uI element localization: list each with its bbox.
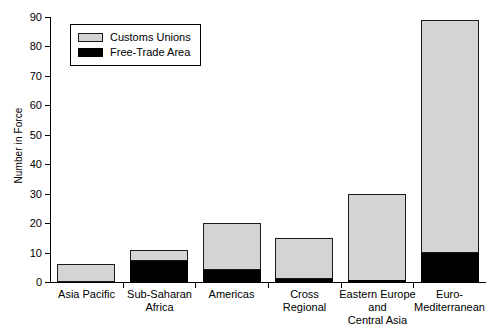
x-label-line: Central Asia (335, 314, 420, 327)
segment-free-trade-area (421, 253, 479, 282)
segment-free-trade-area (130, 261, 188, 282)
bar-sub-saharan-africa (130, 250, 188, 282)
x-label-euro-mediterranean: Euro-Mediterranean (407, 288, 492, 314)
y-tick-label: 90 (18, 9, 42, 25)
y-tick-label: 10 (18, 245, 42, 261)
bar-americas (203, 223, 261, 282)
y-tick-label: 0 (18, 274, 42, 290)
x-label-line: Africa (117, 301, 202, 314)
y-tick-label: 30 (18, 186, 42, 202)
customs-unions-swatch (78, 33, 103, 42)
segment-free-trade-area (348, 280, 406, 282)
y-tick-label: 80 (18, 38, 42, 54)
segment-customs-unions (421, 20, 479, 253)
y-tick-label: 20 (18, 215, 42, 231)
chart-legend: Customs Unions Free-Trade Area (70, 24, 201, 66)
legend-item-customs-unions: Customs Unions (78, 30, 191, 45)
bar-euro-mediterranean (421, 20, 479, 282)
bar-eastern-europe-and-central-asia (348, 194, 406, 282)
y-tick-label: 40 (18, 156, 42, 172)
legend-item-free-trade-area: Free-Trade Area (78, 45, 191, 60)
segment-free-trade-area (203, 270, 261, 282)
bar-chart: Number in Force 0102030405060708090 Cust… (0, 0, 494, 333)
segment-customs-unions (130, 250, 188, 262)
x-label-line: Mediterranean (407, 301, 492, 314)
y-tick-label: 70 (18, 68, 42, 84)
y-tick-mark (45, 282, 50, 283)
legend-label-free-trade-area: Free-Trade Area (110, 46, 190, 59)
segment-customs-unions (275, 238, 333, 279)
segment-customs-unions (348, 194, 406, 281)
segment-free-trade-area (275, 279, 333, 282)
x-axis-labels: Asia PacificSub-SaharanAfricaAmericasCro… (50, 288, 486, 333)
segment-customs-unions (203, 223, 261, 270)
x-label-line: Euro- (407, 288, 492, 301)
free-trade-area-swatch (78, 48, 103, 57)
bar-cross-regional (275, 238, 333, 282)
segment-customs-unions (57, 264, 115, 282)
y-tick-label: 60 (18, 97, 42, 113)
legend-label-customs-unions: Customs Unions (110, 31, 191, 44)
y-tick-label: 50 (18, 127, 42, 143)
bar-asia-pacific (57, 264, 115, 282)
